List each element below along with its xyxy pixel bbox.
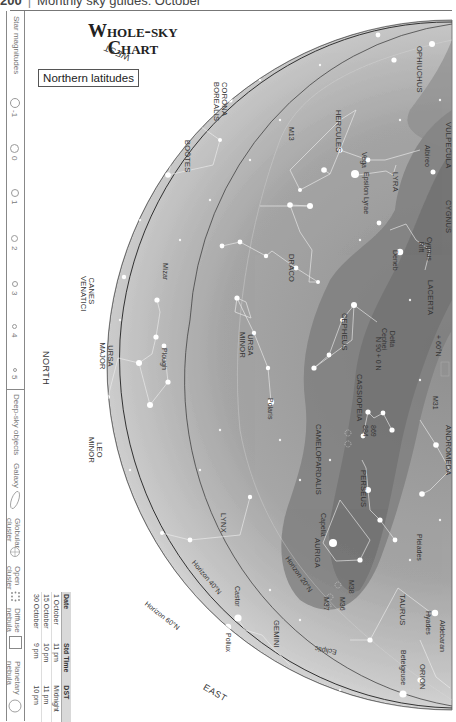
- table-row: 15 October 10 pm 11 pm: [42, 592, 52, 722]
- constellation-cassiopeia: CASSIOPEIA: [355, 374, 363, 421]
- dso-m31: M31: [431, 396, 439, 410]
- diffuse-nebula-label: Diffuse nebula: [5, 608, 21, 638]
- star-delta-cephei: Delta Cephei: [380, 328, 396, 350]
- constellation-perseus: PERSEUS: [359, 470, 367, 507]
- legend-divider: [7, 389, 24, 390]
- dso-884: 884: [361, 425, 369, 437]
- table-cell: 1 October: [52, 592, 62, 641]
- magnitude-3-icon: [12, 281, 18, 287]
- constellation-lacerta: LACERTA: [426, 280, 434, 315]
- table-header-date: Date: [62, 592, 72, 641]
- observation-time-table: Date Std Time DST 1 October 11 pm Midnig…: [33, 592, 71, 722]
- table-cell: 15 October: [42, 592, 52, 641]
- constellation-camelopardalis: CAMELOPARDALIS: [314, 424, 322, 495]
- magnitude-label: 5: [10, 375, 19, 379]
- constellation-cepheus: CEPHEUS: [340, 313, 348, 351]
- table-row: 1 October 11 pm Midnight: [52, 592, 62, 722]
- dso-869: 869: [369, 425, 377, 437]
- table-header-dst: DST: [62, 683, 72, 722]
- planetary-nebula-label: Planetary nebula: [5, 661, 21, 691]
- globular-cluster-label: Globular cluster: [5, 518, 21, 548]
- table-cell: 11 pm: [52, 641, 62, 683]
- constellation-auriga: AURIGA: [313, 538, 321, 568]
- magnitude-2-icon: [11, 235, 18, 242]
- legend-strip: Star magnitudes -1 0 1 2 3 4 5 Deep-sky …: [6, 11, 25, 721]
- dso-m37: M37: [322, 597, 330, 611]
- constellation-hercules: HERCULES: [334, 110, 342, 152]
- star-polaris: Polaris: [266, 398, 274, 419]
- dso-m38: M38: [347, 580, 355, 594]
- constellation-lyra: LYRA: [391, 172, 399, 192]
- dso-m36: M36: [338, 597, 346, 611]
- magnitude-label: 2: [10, 246, 19, 250]
- constellation-gemini: GEMINI: [272, 620, 280, 648]
- table-cell: 10 pm: [42, 641, 52, 683]
- star-vega: Vega: [360, 152, 368, 168]
- star-castor: Castor: [233, 586, 241, 607]
- table-cell: 10 pm: [32, 683, 42, 722]
- magnitude-0-icon: [10, 144, 19, 153]
- diffuse-nebula-square-icon: [9, 636, 22, 649]
- magnitude-label: 1: [10, 200, 19, 204]
- star-pollux: Pollux: [224, 633, 232, 652]
- star-mizar: Mizar: [161, 263, 169, 280]
- planetary-nebula-circle-icon: [8, 699, 22, 713]
- grid-annotation-60n: + 60°N: [434, 335, 442, 357]
- star-epsilon-lyrae: Epsilon Lyrae: [362, 172, 370, 214]
- star-betelgeuse: Betelgeuse: [399, 650, 407, 685]
- table-row: 30 October 9 pm 10 pm: [32, 592, 42, 722]
- star-plough: Plough: [160, 348, 168, 370]
- table-cell: 9 pm: [32, 641, 42, 683]
- galaxy-label: Galaxy: [12, 463, 21, 488]
- constellation-cygnus: CYGNUS: [444, 200, 452, 233]
- magnitude-label: 0: [10, 156, 19, 160]
- star-magnitudes-label: Star magnitudes: [12, 16, 21, 74]
- galaxy-ellipse-icon: [9, 489, 21, 511]
- constellation-draco: DRACO: [287, 254, 295, 282]
- constellation-ursa-minor: URSA MINOR: [238, 330, 254, 360]
- constellation-orion: ORION: [418, 664, 426, 690]
- magnitude-minus1-icon: [10, 98, 20, 108]
- open-cluster-icon: [10, 591, 21, 602]
- table-cell: 11 pm: [42, 683, 52, 722]
- star-capella: Capella: [319, 513, 327, 537]
- constellation-ursa-major: URSA MAJOR: [98, 341, 114, 371]
- table-cell: 30 October: [32, 592, 42, 641]
- star-deneb: Deneb: [391, 250, 399, 271]
- star-albireo: Albireo: [423, 145, 431, 167]
- constellation-lynx: LYNX: [219, 513, 227, 533]
- direction-north-label: NORTH: [42, 351, 50, 385]
- star-hyades: Hyades: [424, 611, 432, 635]
- constellation-corona-borealis: CORONA BOREALIS: [212, 82, 228, 112]
- dso-m13: M13: [287, 127, 295, 141]
- star-pleiades: Pleiades: [415, 534, 423, 561]
- chart-title-line2: Chart: [88, 39, 178, 56]
- latitude-subtitle: Northern latitudes: [38, 69, 139, 87]
- globular-cluster-icon: [9, 546, 21, 558]
- table-cell: Midnight: [52, 683, 62, 722]
- grid-annotation-dec: N 90 + 0 N: [374, 337, 382, 371]
- deep-sky-objects-label: Deep-sky objects: [12, 394, 21, 455]
- magnitude-label: -1: [10, 110, 19, 117]
- constellation-taurus: TAURUS: [398, 594, 406, 625]
- constellation-leo-minor: LEO MINOR: [87, 435, 103, 465]
- magnitude-5-icon: [13, 368, 17, 372]
- star-cygnus-rift: Cygnus Rift: [417, 237, 433, 257]
- constellation-canes-venatici: CANES VENATICI: [79, 276, 95, 306]
- constellation-bootes: BOÖTES: [183, 140, 191, 172]
- magnitude-4-icon: [12, 324, 17, 329]
- magnitude-label: 4: [10, 333, 19, 337]
- magnitude-1-icon: [11, 189, 19, 197]
- constellation-ophiuchus: OPHIUCHUS: [415, 46, 423, 93]
- constellation-vulpecula: VULPECULA: [444, 122, 452, 168]
- star-aldebaran: Aldebaran: [438, 620, 446, 652]
- table-header-std-time: Std Time: [62, 641, 72, 683]
- magnitude-label: 3: [10, 291, 19, 295]
- constellation-andromeda: ANDROMEDA: [444, 425, 452, 476]
